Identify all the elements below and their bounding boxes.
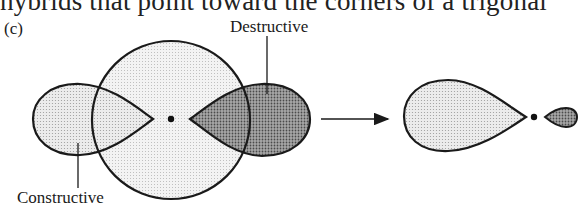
hybrid-small-lobe [545,108,577,127]
nucleus-dot-left [168,116,174,122]
sp-hybridization-diagram [0,0,587,214]
hybrid-large-lobe [404,80,526,151]
nucleus-dot-right [531,114,537,120]
